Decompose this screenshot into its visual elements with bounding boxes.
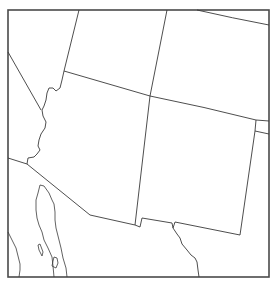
border-rio-grande — [173, 228, 199, 277]
island-angel-de-la-guarda — [38, 244, 43, 256]
border-arizona-mexico — [27, 164, 140, 227]
coast-sonora — [40, 185, 67, 277]
border-oklahoma-panhandle — [255, 120, 269, 134]
border-california-mexico — [8, 158, 27, 164]
coast-baja-west — [8, 232, 20, 277]
border-utah-colorado — [150, 10, 167, 96]
border-nevada-california — [8, 52, 41, 110]
border-new-mexico-mexico — [140, 218, 240, 235]
border-new-mexico-texas — [240, 131, 255, 235]
border-arizona-new-mexico — [135, 96, 150, 225]
border-colorado-new-mexico — [150, 96, 269, 121]
border-colorado-north — [197, 10, 269, 25]
island-tiburon — [52, 257, 58, 268]
border-utah-arizona — [64, 71, 150, 96]
border-nevada-arizona-colorado-river — [27, 10, 79, 164]
map-frame — [8, 10, 269, 277]
map — [0, 0, 274, 286]
